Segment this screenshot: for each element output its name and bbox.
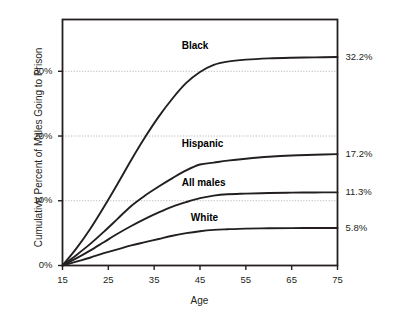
x-tick-label-75: 75 (323, 274, 353, 285)
series-line-black (63, 57, 338, 265)
y-tick-label-30pct: 30% (13, 65, 53, 76)
end-label-white: 5.8% (346, 222, 368, 233)
x-axis-title: Age (62, 295, 337, 306)
series-line-white (63, 228, 338, 266)
end-label-hispanic: 17.2% (346, 148, 373, 159)
series-lines (63, 57, 338, 265)
series-line-hispanic (63, 154, 338, 265)
y-tick-label-10pct: 10% (13, 194, 53, 205)
series-label-black: Black (182, 40, 209, 51)
y-axis-title: Cumulative Percent of Males Going to Pri… (33, 48, 44, 248)
axis-ticks (58, 71, 338, 270)
series-label-white: White (191, 212, 218, 223)
y-tick-label-0pct: 0% (13, 259, 53, 270)
x-tick-label-55: 55 (231, 274, 261, 285)
x-tick-label-25: 25 (93, 274, 123, 285)
y-tick-label-20pct: 20% (13, 130, 53, 141)
x-tick-label-35: 35 (139, 274, 169, 285)
x-tick-label-65: 65 (277, 274, 307, 285)
end-label-black: 32.2% (346, 51, 373, 62)
x-tick-label-45: 45 (185, 274, 215, 285)
series-label-all-males: All males (182, 177, 226, 188)
x-tick-label-15: 15 (48, 274, 78, 285)
prison-incarceration-chart: Cumulative Percent of Males Going to Pri… (0, 0, 396, 323)
series-label-hispanic: Hispanic (182, 138, 224, 149)
end-label-all-males: 11.3% (346, 186, 372, 197)
